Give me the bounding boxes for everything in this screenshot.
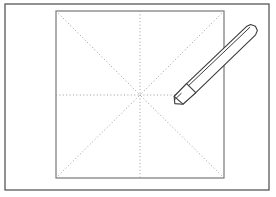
figure-canvas: Line drawing: a square sheet of paper in… (0, 0, 276, 197)
diagram-svg (0, 0, 276, 197)
